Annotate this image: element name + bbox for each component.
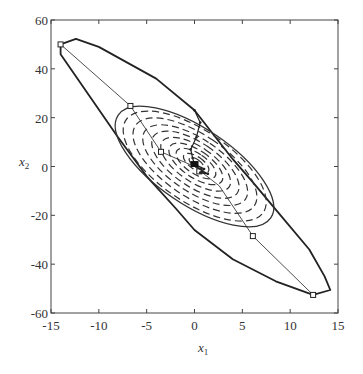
trajectory-point bbox=[199, 121, 202, 124]
trajectory-point bbox=[207, 173, 210, 176]
trajectory-point bbox=[189, 148, 192, 151]
x-tick-label: 5 bbox=[239, 318, 246, 333]
x-tick-label: -10 bbox=[90, 318, 107, 333]
y-tick-label: 40 bbox=[35, 62, 48, 77]
square-marker-icon bbox=[311, 292, 316, 297]
x-tick-label: 15 bbox=[332, 318, 345, 333]
y-tick-label: -20 bbox=[31, 208, 48, 223]
plot-area bbox=[58, 39, 330, 298]
y-tick-label: 0 bbox=[42, 160, 49, 175]
square-marker-icon bbox=[250, 234, 255, 239]
x-tick-label: -5 bbox=[141, 318, 152, 333]
trajectory-point bbox=[193, 109, 196, 112]
y-tick-label: -60 bbox=[31, 306, 48, 321]
y-tick-label: -40 bbox=[31, 257, 48, 272]
x-tick-label: 0 bbox=[191, 318, 198, 333]
axes: -15-10-5051015-60-40-200204060 bbox=[31, 13, 345, 333]
trajectory-point bbox=[203, 168, 206, 171]
x-axis-label: x1 bbox=[197, 340, 208, 357]
y-axis-label: x2 bbox=[18, 154, 29, 171]
trajectory-point bbox=[195, 136, 198, 139]
y-tick-label: 60 bbox=[35, 13, 48, 28]
equilibrium-marker bbox=[191, 161, 199, 167]
trajectory-point bbox=[201, 170, 204, 173]
trajectory-point bbox=[191, 157, 194, 160]
x-tick-label: 10 bbox=[284, 318, 297, 333]
y-tick-label: 20 bbox=[35, 111, 48, 126]
square-marker-icon bbox=[128, 103, 133, 108]
chart: -15-10-5051015-60-40-200204060 x2 x1 bbox=[0, 0, 363, 374]
square-marker-icon bbox=[58, 42, 63, 47]
square-marker-icon bbox=[159, 149, 164, 154]
